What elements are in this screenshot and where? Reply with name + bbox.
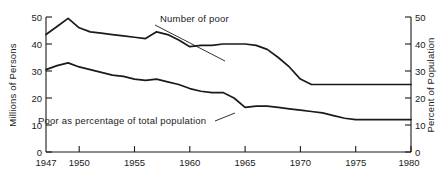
x-tick-label: 1955 xyxy=(124,157,145,168)
right-tick-label: 10 xyxy=(415,120,426,131)
right-tick-label: 30 xyxy=(415,66,426,77)
x-tick-label: 1947 xyxy=(35,157,56,168)
right-tick-label: 50 xyxy=(415,12,426,23)
annotation-leader-upper xyxy=(155,25,225,61)
x-tick-label: 1980 xyxy=(398,157,419,168)
x-tick-label: 1950 xyxy=(69,157,90,168)
x-tick-label: 1960 xyxy=(179,157,200,168)
x-tick-label: 1970 xyxy=(290,157,311,168)
x-tick-label: 1965 xyxy=(235,157,256,168)
y-axis-title-left: Millions of Persons xyxy=(7,43,18,127)
series-line-poor-percentage xyxy=(46,63,411,120)
left-tick-label: 40 xyxy=(31,39,42,50)
right-tick-label: 20 xyxy=(415,93,426,104)
bottom-axis-ticks xyxy=(79,146,411,152)
series-line-number-of-poor xyxy=(46,18,411,84)
right-tick-label: 40 xyxy=(415,39,426,50)
left-tick-labels: 50 40 30 20 10 0 xyxy=(31,12,42,158)
right-tick-labels: 50 40 30 20 10 0 xyxy=(415,12,426,158)
y-axis-title-right: Percent of Population xyxy=(425,37,436,132)
annotation-label-poor-percentage: Poor as percentage of total population xyxy=(38,115,206,126)
x-tick-labels: 1947 1950 1955 1960 1965 1970 1975 1980 xyxy=(35,157,419,168)
left-tick-label: 30 xyxy=(31,66,42,77)
left-tick-label: 20 xyxy=(31,93,42,104)
right-tick-label: 0 xyxy=(415,147,420,158)
left-axis-ticks xyxy=(46,17,52,152)
annotation-leader-lower xyxy=(215,113,235,121)
x-tick-label: 1975 xyxy=(345,157,366,168)
chart-container: 50 40 30 20 10 0 50 40 30 20 10 0 1947 1… xyxy=(0,0,440,179)
poverty-line-chart: 50 40 30 20 10 0 50 40 30 20 10 0 1947 1… xyxy=(0,0,440,179)
left-tick-label: 0 xyxy=(37,147,42,158)
left-tick-label: 50 xyxy=(31,12,42,23)
annotation-label-number-of-poor: Number of poor xyxy=(160,13,229,24)
